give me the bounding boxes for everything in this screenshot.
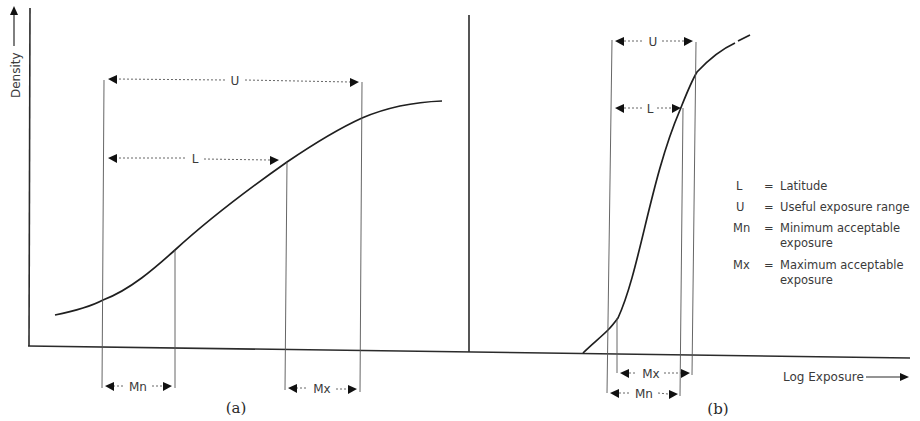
curve-a [55,101,442,315]
arrow-right-icon [900,373,909,381]
svg-text:U: U [649,35,658,49]
y-axis-label: Density [9,52,23,98]
svg-text:Minimum acceptable: Minimum acceptable [780,221,900,235]
range-mx-a: Mx [288,382,357,396]
svg-text:exposure: exposure [780,236,833,250]
svg-text:U: U [736,200,744,214]
x-axis-label-group: Log Exposure [783,370,909,384]
arrow-up-icon [10,6,18,15]
svg-text:Mn: Mn [129,380,147,394]
svg-text:=: = [764,258,774,272]
range-l-b: L [615,102,681,116]
legend: L = Latitude U = Useful exposure range M… [733,179,910,287]
legend-item-latitude: L = Latitude [736,179,827,193]
svg-text:L: L [192,152,199,166]
svg-text:U: U [231,74,240,88]
y-axis-label-group: Density [9,6,23,98]
legend-item-maximum: Mx = Maximum acceptable exposure [733,258,904,287]
range-mn-b: Mn [610,387,678,401]
svg-text:=: = [764,200,774,214]
svg-text:L: L [647,102,654,116]
panel-b: U L Mx Mn (b) [583,35,750,418]
y-axis [29,8,30,346]
svg-text:Mn: Mn [733,221,750,235]
legend-item-useful-range: U = Useful exposure range [736,200,910,214]
curve-b [583,43,735,353]
caption-b: (b) [707,400,728,418]
range-mn-a: Mn [105,380,172,394]
svg-text:exposure: exposure [780,273,833,287]
svg-text:Mn: Mn [635,387,653,401]
svg-text:Maximum acceptable: Maximum acceptable [780,258,904,272]
range-mx-b: Mx [620,367,690,381]
svg-text:L: L [736,179,743,193]
range-u-b: U [615,35,693,49]
svg-text:=: = [764,179,774,193]
svg-text:Mx: Mx [733,258,750,272]
svg-text:Useful exposure range: Useful exposure range [780,200,910,214]
legend-item-minimum: Mn = Minimum acceptable exposure [733,221,900,250]
svg-text:=: = [764,221,774,235]
curve-b-extension [738,35,750,41]
range-l-a: L [108,152,279,166]
svg-text:Mx: Mx [313,382,330,396]
panel-a: U L Mn Mx (a) [55,74,442,417]
characteristic-curve-diagram: Density Log Exposure U [0,0,920,421]
svg-text:Latitude: Latitude [780,179,827,193]
svg-text:Mx: Mx [642,367,659,381]
x-axis-label: Log Exposure [783,370,864,384]
range-u-a: U [108,74,359,88]
caption-a: (a) [226,399,247,417]
